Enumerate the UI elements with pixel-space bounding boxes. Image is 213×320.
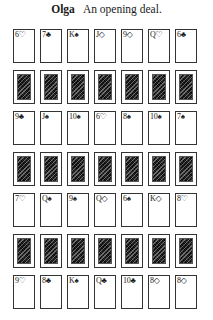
card-back-pattern-icon [71, 74, 85, 100]
card-back-pattern-icon [179, 238, 193, 264]
card-face-up[interactable]: 6♡ [13, 29, 35, 63]
card-face-down[interactable] [13, 234, 35, 268]
card-back-pattern-icon [98, 238, 112, 264]
card-face-up[interactable]: 9◇ [121, 29, 143, 63]
card-back-pattern-icon [125, 156, 139, 182]
card-face-down[interactable] [121, 152, 143, 186]
card-index: 6♡ [96, 112, 107, 121]
card-face-down[interactable] [67, 152, 89, 186]
card-face-down[interactable] [67, 234, 89, 268]
card-face-up[interactable]: K♠ [67, 29, 89, 63]
card-face-down[interactable] [148, 70, 170, 104]
card-index: Q◇ [96, 194, 107, 203]
card-face-down[interactable] [94, 234, 116, 268]
card-index: 8♡ [177, 194, 188, 203]
card-face-down[interactable] [148, 152, 170, 186]
card-face-up[interactable]: 9♠ [67, 193, 89, 227]
card-face-up[interactable]: 8◇ [148, 275, 170, 309]
card-face-up[interactable]: 9♣ [13, 111, 35, 145]
card-face-up[interactable]: 8♠ [121, 111, 143, 145]
card-face-down[interactable] [94, 70, 116, 104]
card-back-pattern-icon [125, 74, 139, 100]
card-face-up[interactable]: 10♣ [121, 275, 143, 309]
card-back-pattern-icon [152, 74, 166, 100]
card-face-up[interactable]: 7♡ [13, 193, 35, 227]
card-face-up[interactable]: 8♣ [40, 275, 62, 309]
card-back-pattern-icon [179, 74, 193, 100]
card-face-up[interactable]: K♠ [67, 275, 89, 309]
card-face-up[interactable]: 6♡ [94, 111, 116, 145]
card-index: 6♡ [15, 30, 26, 39]
card-index: 10♠ [69, 112, 80, 121]
card-back-pattern-icon [125, 238, 139, 264]
card-face-up[interactable]: 9♡ [13, 275, 35, 309]
card-index: Q♠ [42, 194, 51, 203]
card-back-pattern-icon [44, 74, 58, 100]
card-index: 6♣ [177, 30, 186, 39]
card-face-up[interactable]: 6♠ [121, 193, 143, 227]
card-face-down[interactable] [67, 70, 89, 104]
card-index: 10♠ [150, 112, 161, 121]
card-face-down[interactable] [121, 234, 143, 268]
card-face-up[interactable]: 8♡ [175, 193, 197, 227]
card-index: Q♡ [150, 30, 162, 39]
card-back-pattern-icon [17, 74, 31, 100]
card-face-up[interactable]: J♠ [40, 111, 62, 145]
card-index: 6♠ [123, 194, 131, 203]
card-index: J◇ [96, 30, 105, 39]
card-back-pattern-icon [179, 156, 193, 182]
card-face-up[interactable]: Q♠ [40, 193, 62, 227]
card-index: K♠ [69, 276, 78, 285]
card-index: J♠ [42, 112, 49, 121]
card-index: 9♣ [15, 112, 24, 121]
card-back-pattern-icon [71, 156, 85, 182]
card-face-down[interactable] [13, 70, 35, 104]
card-face-down[interactable] [40, 70, 62, 104]
card-face-up[interactable]: 6♣ [175, 29, 197, 63]
card-face-down[interactable] [40, 152, 62, 186]
card-face-up[interactable]: 7♣ [40, 29, 62, 63]
card-back-pattern-icon [17, 156, 31, 182]
card-face-down[interactable] [175, 234, 197, 268]
card-face-down[interactable] [175, 152, 197, 186]
card-face-up[interactable]: 8◇ [175, 275, 197, 309]
card-face-up[interactable]: Q♣ [94, 275, 116, 309]
card-face-down[interactable] [175, 70, 197, 104]
card-face-up[interactable]: K◇ [148, 193, 170, 227]
card-index: K◇ [150, 194, 161, 203]
card-index: 8♣ [42, 276, 51, 285]
card-back-pattern-icon [44, 238, 58, 264]
figure-caption: OlgaAn opening deal. [0, 3, 213, 15]
card-back-pattern-icon [152, 238, 166, 264]
card-face-down[interactable] [121, 70, 143, 104]
card-index: 7♣ [42, 30, 51, 39]
card-index: 9♡ [15, 276, 26, 285]
card-index: K♠ [69, 30, 78, 39]
card-index: 8♠ [123, 112, 131, 121]
card-index: 8◇ [150, 276, 160, 285]
card-face-down[interactable] [13, 152, 35, 186]
card-face-up[interactable]: Q♡ [148, 29, 170, 63]
card-face-down[interactable] [94, 152, 116, 186]
card-back-pattern-icon [71, 238, 85, 264]
caption-text: An opening deal. [83, 3, 162, 15]
card-face-up[interactable]: J◇ [94, 29, 116, 63]
card-index: Q♣ [96, 276, 106, 285]
card-face-down[interactable] [148, 234, 170, 268]
card-face-up[interactable]: 10♠ [67, 111, 89, 145]
card-face-down[interactable] [40, 234, 62, 268]
card-index: 7♡ [15, 194, 26, 203]
card-back-pattern-icon [44, 156, 58, 182]
game-name: Olga [51, 3, 75, 15]
card-face-up[interactable]: Q◇ [94, 193, 116, 227]
card-back-pattern-icon [98, 156, 112, 182]
card-index: 8◇ [177, 276, 187, 285]
card-face-up[interactable]: 10♠ [148, 111, 170, 145]
card-index: 7♠ [177, 112, 185, 121]
card-back-pattern-icon [152, 156, 166, 182]
card-back-pattern-icon [98, 74, 112, 100]
card-back-pattern-icon [17, 238, 31, 264]
card-index: 9♠ [69, 194, 77, 203]
card-index: 9◇ [123, 30, 133, 39]
card-face-up[interactable]: 7♠ [175, 111, 197, 145]
